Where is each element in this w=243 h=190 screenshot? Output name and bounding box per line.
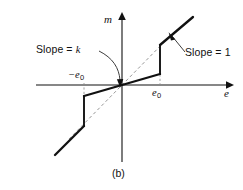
slope-k-leader-curve <box>99 51 120 80</box>
slope-k-leader <box>99 51 123 87</box>
axis-label-m: m <box>104 14 112 25</box>
tick-label-pos-e0-sub: 0 <box>157 91 161 100</box>
figure-caption: (b) <box>112 168 125 179</box>
tick-label-pos-e0-main: e <box>152 87 157 98</box>
annotation-slope-one-value: 1 <box>225 46 231 58</box>
axis-group <box>36 12 234 162</box>
axis-label-e: e <box>224 88 229 99</box>
figure-container: Slope = k Slope = 1 m e −e0 e0 (b) <box>0 0 243 190</box>
tick-label-neg-e0-sub: 0 <box>80 73 84 82</box>
tick-label-neg-e0: −e0 <box>68 70 84 81</box>
vertical-axis-arrowhead <box>118 12 126 20</box>
annotation-slope-one: Slope = 1 <box>185 47 231 58</box>
hysteresis-plot <box>0 0 243 190</box>
annotation-slope-k-prefix: Slope = <box>36 43 76 55</box>
tick-label-pos-e0: e0 <box>152 88 161 99</box>
tick-label-neg-e0-main: −e <box>68 69 80 80</box>
annotation-slope-k: Slope = k <box>36 44 80 56</box>
annotation-slope-k-value: k <box>76 44 81 55</box>
lower-outer-branch-slope-one <box>55 126 84 155</box>
annotation-slope-one-prefix: Slope = <box>185 46 225 58</box>
slope-one-leader <box>169 32 185 52</box>
